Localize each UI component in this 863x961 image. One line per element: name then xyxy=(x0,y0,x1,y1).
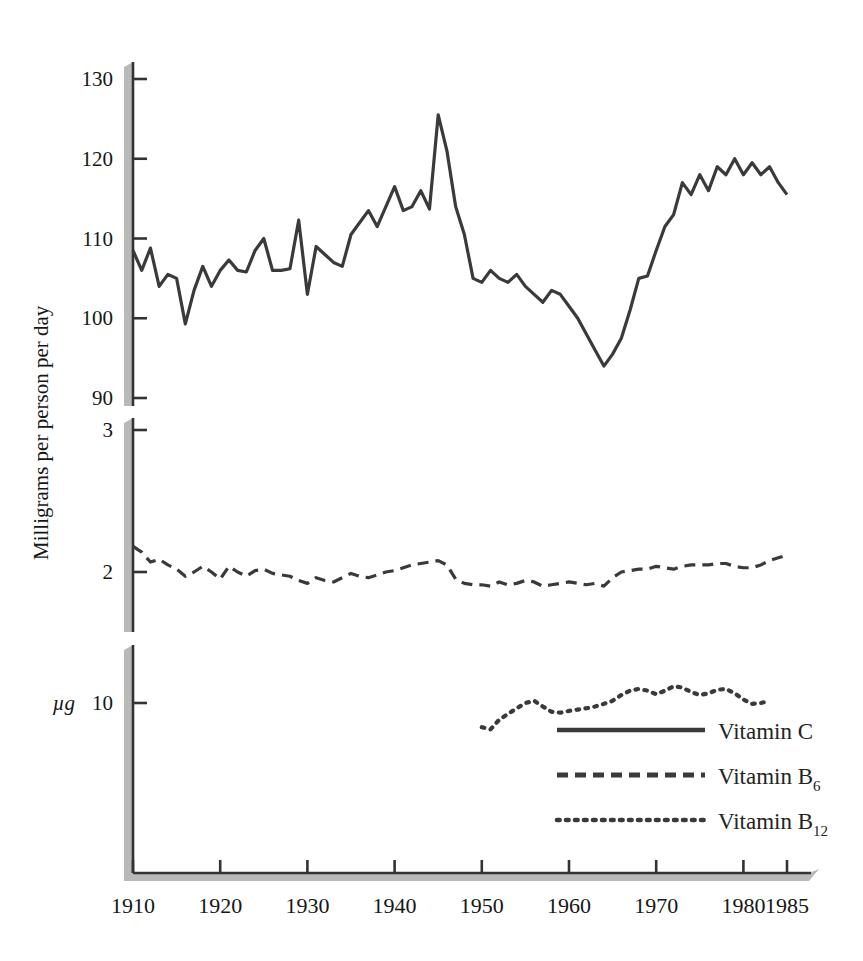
x-tick-label-1910: 1910 xyxy=(111,893,155,918)
y-axis-tick-labels: 130120110100903210µg xyxy=(52,67,113,715)
vitamin-intake-chart: 130120110100903210µg 1910192019301940195… xyxy=(0,0,863,961)
y-tick-label-130: 130 xyxy=(82,67,114,91)
x-tick-label-1960: 1960 xyxy=(547,893,591,918)
chart-canvas: 130120110100903210µg 1910192019301940195… xyxy=(0,0,863,961)
y-tick-label-110: 110 xyxy=(82,227,113,251)
y-tick-label-120: 120 xyxy=(82,147,114,171)
y-axis-title: Milligrams per person per day xyxy=(29,305,53,560)
legend-vitamin-b12-label: Vitamin B12 xyxy=(718,809,828,839)
legend-vitamin-c-label: Vitamin C xyxy=(718,719,813,744)
y-axis-ticks xyxy=(133,79,147,703)
y-axis-shadow-middle xyxy=(124,418,133,632)
x-axis-tick-labels: 191019201930194019501960197019801985 xyxy=(111,893,809,918)
y-axis-shadow-bottom xyxy=(124,645,133,877)
axis-lines-group xyxy=(133,62,811,873)
y-tick-label-2: 2 xyxy=(103,560,114,584)
x-tick-label-1950: 1950 xyxy=(460,893,504,918)
legend-vitamin-b6-label: Vitamin B6 xyxy=(718,764,821,794)
y-unit-label-microgram: µg xyxy=(52,691,75,715)
series-group xyxy=(133,115,787,730)
x-tick-label-1970: 1970 xyxy=(634,893,678,918)
x-tick-label-1985: 1985 xyxy=(765,893,809,918)
x-axis-ticks xyxy=(133,860,787,873)
y-tick-label-10: 10 xyxy=(92,691,113,715)
y-tick-label-90: 90 xyxy=(92,386,113,410)
x-tick-label-1980: 1980 xyxy=(721,893,765,918)
series-line-vitamin-b6 xyxy=(133,546,787,586)
x-axis-shadow xyxy=(124,869,819,881)
legend-vitamin-b12-label-subscript: 12 xyxy=(813,823,828,839)
x-tick-label-1930: 1930 xyxy=(285,893,329,918)
axis-shadow-group xyxy=(124,62,819,881)
y-axis-shadow-top xyxy=(124,62,133,406)
series-line-vitamin-c xyxy=(133,115,787,366)
legend-vitamin-b6-label-subscript: 6 xyxy=(813,778,821,794)
x-tick-label-1940: 1940 xyxy=(373,893,417,918)
chart-legend: Vitamin CVitamin B6Vitamin B12 xyxy=(557,719,828,839)
y-tick-label-3: 3 xyxy=(103,418,114,442)
x-tick-label-1920: 1920 xyxy=(198,893,242,918)
y-tick-label-100: 100 xyxy=(82,306,114,330)
